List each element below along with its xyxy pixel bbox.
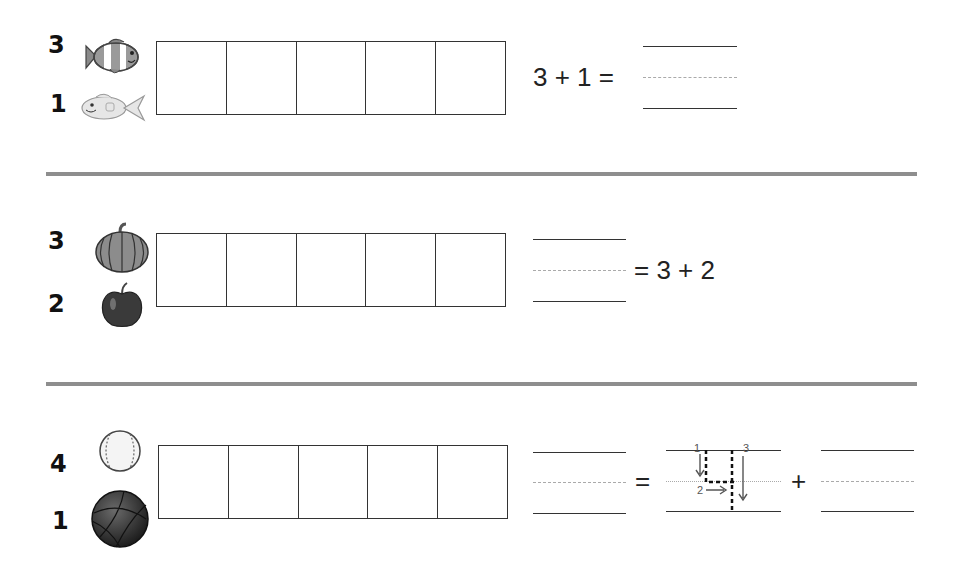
plus-sign: + [791,468,806,494]
apple-icon [100,282,144,328]
stroke-label: 3 [743,443,749,454]
stroke-label: 1 [694,443,700,454]
frame-cell[interactable] [436,42,505,114]
frame-cell[interactable] [227,42,297,114]
equation-text: 3 + 1 = [533,64,614,90]
frame-cell[interactable] [366,42,436,114]
top-line [821,450,914,451]
frame-cell[interactable] [297,234,367,306]
mid-line [821,481,914,482]
pumpkin-icon [94,222,150,274]
ten-frame-row [156,233,506,307]
mid-line [533,270,626,271]
frame-cell[interactable] [368,446,438,518]
equals-sign: = [635,468,650,494]
top-line [533,239,626,240]
section-divider [46,172,917,176]
count-bottom: 1 [50,92,67,116]
ten-frame-row [156,41,506,115]
mid-line [533,482,626,483]
top-line [643,46,737,47]
count-bottom: 1 [52,509,69,533]
frame-cell[interactable] [157,42,227,114]
count-top: 4 [50,452,67,476]
frame-cell[interactable] [299,446,369,518]
ten-frame-row [158,445,508,519]
frame-cell[interactable] [436,234,505,306]
frame-cell[interactable] [227,234,297,306]
baseball-icon [98,429,142,473]
digit-4-trace-icon [690,450,760,512]
top-line [533,452,626,453]
count-bottom: 2 [48,292,65,316]
equation-text: = 3 + 2 [634,257,715,283]
bottom-line [533,301,626,302]
frame-cell[interactable] [159,446,229,518]
frame-cell[interactable] [438,446,507,518]
count-top: 3 [48,229,65,253]
mid-line [643,77,737,78]
frame-cell[interactable] [157,234,227,306]
frame-cell[interactable] [366,234,436,306]
bottom-line [533,513,626,514]
fish-icon [78,90,148,126]
clownfish-icon [80,36,144,78]
bottom-line [821,511,914,512]
stroke-label: 2 [697,485,703,496]
bottom-line [643,108,737,109]
count-top: 3 [48,33,65,57]
basketball-icon [90,489,150,549]
frame-cell[interactable] [229,446,299,518]
section-divider [46,382,917,386]
frame-cell[interactable] [297,42,367,114]
